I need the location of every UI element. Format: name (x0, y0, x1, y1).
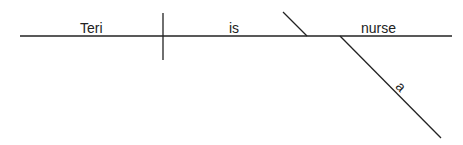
predicate-nominative-word: nurse (361, 20, 396, 36)
verb-word: is (229, 20, 239, 36)
modifier-line (340, 36, 441, 138)
sentence-diagram: Teri is nurse a (0, 0, 463, 145)
predicate-divider (283, 12, 307, 36)
subject-word: Teri (80, 20, 103, 36)
